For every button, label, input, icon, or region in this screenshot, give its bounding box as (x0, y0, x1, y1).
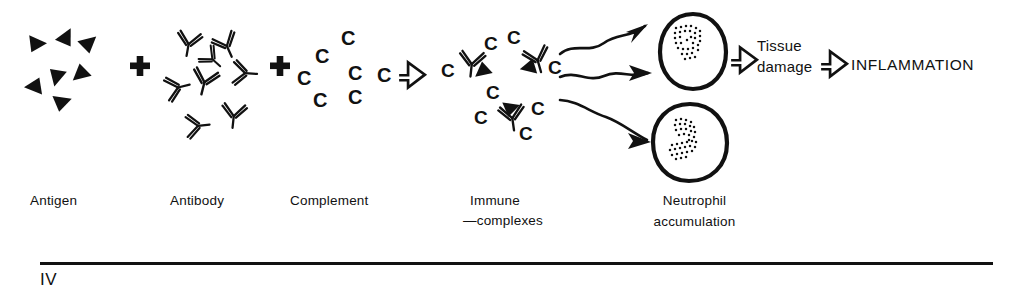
complement-glyph-group: C C C C C C C (297, 27, 391, 111)
footer-roman-numeral: IV (40, 270, 57, 290)
immune-complex-2: C C (507, 27, 562, 78)
svg-text:C: C (348, 86, 362, 108)
antibody-glyph-group (164, 30, 258, 139)
arrowhead-2 (629, 65, 652, 81)
svg-text:C: C (341, 27, 355, 49)
antigen-glyph-group (23, 24, 101, 112)
svg-text:C: C (377, 64, 391, 86)
block-arrow-2 (731, 47, 757, 72)
svg-text:C: C (507, 27, 521, 48)
wavy-arrow-group (560, 26, 648, 140)
svg-text:C: C (474, 107, 488, 128)
stage-label-immune-complexes-line1: Immune (470, 193, 600, 208)
footer-divider-rule (40, 262, 993, 265)
stage-label-antigen: Antigen (30, 193, 120, 208)
neutrophil-cell-1 (660, 14, 726, 89)
stage-label-antibody: Antibody (170, 193, 280, 208)
svg-text:C: C (486, 82, 500, 103)
svg-text:C: C (519, 123, 533, 144)
svg-text:C: C (484, 33, 498, 54)
plus-sign-2 (270, 56, 290, 76)
stage-label-tissue-damage-line2: damage (757, 58, 837, 75)
svg-text:C: C (441, 60, 455, 81)
immune-complex-3: C C C C (474, 82, 545, 144)
stage-label-neutrophil-line1: Neutrophil (612, 193, 777, 208)
svg-text:C: C (313, 89, 327, 111)
plus-sign-1 (130, 56, 150, 76)
wavy-arrow-3 (560, 100, 647, 140)
neutrophil-cell-2 (653, 104, 727, 181)
svg-text:C: C (315, 45, 329, 67)
immune-complex-1: C C (441, 33, 498, 83)
svg-text:C: C (531, 98, 545, 119)
svg-text:C: C (548, 57, 562, 78)
svg-text:C: C (297, 67, 311, 89)
stage-label-neutrophil-line2: accumulation (612, 214, 777, 229)
stage-label-tissue-damage-line1: Tissue (757, 37, 827, 54)
block-arrow-1 (399, 62, 425, 87)
svg-text:C: C (348, 62, 362, 84)
figure-canvas: C C C C C C C C C C C (0, 0, 1020, 300)
diagram-svg: C C C C C C C C C C C (0, 0, 1020, 300)
stage-label-immune-complexes-line2: —complexes (463, 213, 613, 228)
stage-label-inflammation: INFLAMMATION (851, 56, 1020, 74)
stage-label-complement: Complement (290, 193, 430, 208)
